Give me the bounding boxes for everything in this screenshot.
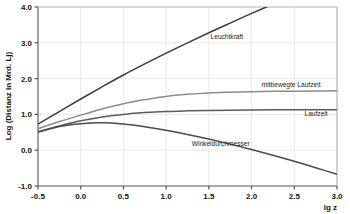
- y-axis-title: Log (Distanz in Mrd. Lj): [4, 51, 13, 140]
- series-label-laufzeit: Laufzeit: [305, 110, 328, 117]
- y-tick-label: 2.0: [21, 75, 33, 84]
- distance-measures-line-chart: -0.50.00.51.01.52.02.53.0 -1.00.01.02.03…: [0, 0, 350, 214]
- y-tick-label: 1.0: [21, 110, 33, 119]
- x-tick-label: 0.0: [75, 192, 87, 201]
- chart-container: -0.50.00.51.01.52.02.53.0 -1.00.01.02.03…: [0, 0, 350, 214]
- x-tick-label: 2.0: [246, 192, 258, 201]
- series-label-mitbewegte-laufzeit: mitbewegte Laufzeit: [262, 81, 321, 89]
- y-tick-label: 4.0: [21, 3, 33, 12]
- x-axis-title: lg z: [324, 203, 337, 212]
- x-tick-label: 2.5: [289, 192, 301, 201]
- y-tick-label: 0.0: [21, 146, 33, 155]
- y-tick-label: 3.0: [21, 39, 33, 48]
- chart-background: [0, 0, 350, 214]
- x-tick-label: -0.5: [31, 192, 45, 201]
- x-tick-label: 1.5: [203, 192, 215, 201]
- y-tick-label: -1.0: [18, 182, 32, 191]
- series-label-leuchtkraft: Leuchtkraft: [211, 33, 244, 40]
- x-tick-label: 1.0: [161, 192, 173, 201]
- series-label-winkeldurchmesser: Winkeldurchmesser: [192, 140, 251, 147]
- x-tick-label: 0.5: [118, 192, 130, 201]
- x-tick-label: 3.0: [331, 192, 343, 201]
